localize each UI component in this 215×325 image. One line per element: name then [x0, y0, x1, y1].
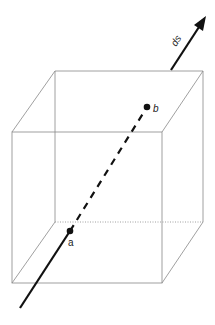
label-a: a	[68, 237, 74, 248]
line-entry-segment	[20, 231, 70, 308]
cube-edge-br	[162, 222, 203, 283]
diagram-canvas: a b ds	[0, 0, 215, 325]
ds-arrowhead	[194, 16, 206, 31]
label-ds: ds	[168, 33, 183, 48]
point-b	[144, 104, 151, 111]
cube-edge-tl	[12, 71, 55, 132]
point-a	[67, 228, 74, 235]
line-exit-segment	[171, 27, 199, 70]
cube-edge-tr	[162, 71, 203, 132]
cube	[12, 71, 203, 283]
cube-front-face	[12, 132, 162, 283]
path-line	[20, 27, 199, 308]
cube-edge-bl	[12, 222, 55, 283]
line-hidden-segment	[70, 107, 147, 231]
label-b: b	[153, 103, 159, 114]
